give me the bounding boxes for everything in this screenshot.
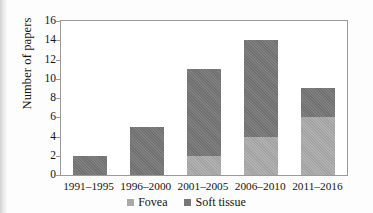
x-tick-label: 2001–2005	[174, 180, 231, 193]
bar-segment	[187, 69, 221, 156]
bar-segment	[73, 156, 107, 175]
y-tick-mark	[56, 175, 60, 176]
bar-group	[61, 21, 118, 175]
stacked-bar-chart: Number of papers 0246810121416 1991–1995…	[0, 0, 373, 213]
legend-swatch-icon	[184, 199, 191, 206]
y-tick-label: 6	[34, 111, 56, 122]
y-tick-mark	[56, 117, 60, 118]
bar-segment	[301, 117, 335, 175]
chart-legend: FoveaSoft tissue	[0, 196, 373, 208]
bar-group	[118, 21, 175, 175]
bar-stack	[73, 156, 107, 175]
bar-segment	[301, 88, 335, 117]
legend-swatch-icon	[127, 199, 134, 206]
bar-segment	[187, 156, 221, 175]
y-tick-mark	[56, 60, 60, 61]
legend-item[interactable]: Soft tissue	[184, 196, 245, 208]
y-tick-label: 12	[34, 54, 56, 65]
bar-segment	[130, 127, 164, 175]
y-tick-label: 14	[34, 34, 56, 45]
y-tick-label: 8	[34, 92, 56, 103]
y-tick-label: 4	[34, 131, 56, 142]
legend-label: Fovea	[138, 196, 167, 208]
bar-segment	[244, 137, 278, 176]
bar-stack	[301, 88, 335, 175]
y-tick-mark	[56, 40, 60, 41]
y-axis-tick-labels: 0246810121416	[34, 20, 56, 176]
bar-stack	[187, 69, 221, 175]
bar-group	[290, 21, 347, 175]
bar-group	[233, 21, 290, 175]
x-tick-label: 2006–2010	[232, 180, 289, 193]
y-tick-mark	[56, 137, 60, 138]
bar-stack	[244, 40, 278, 175]
y-tick-mark	[56, 156, 60, 157]
y-tick-label: 16	[34, 15, 56, 26]
legend-item[interactable]: Fovea	[127, 196, 167, 208]
legend-label: Soft tissue	[195, 196, 245, 208]
x-axis-tick-labels: 1991–19951996–20002001–20052006–20102011…	[60, 180, 348, 196]
y-tick-label: 10	[34, 73, 56, 84]
bar-group	[175, 21, 232, 175]
bars-layer	[61, 21, 347, 175]
y-tick-mark	[56, 79, 60, 80]
y-tick-mark	[56, 21, 60, 22]
x-tick-label: 1991–1995	[60, 180, 117, 193]
y-tick-label: 2	[34, 150, 56, 161]
bar-segment	[244, 40, 278, 136]
scan-edge-artifact	[0, 0, 7, 213]
x-tick-label: 1996–2000	[117, 180, 174, 193]
bar-stack	[130, 127, 164, 175]
y-axis-title: Number of papers	[20, 0, 35, 129]
x-tick-label: 2011–2016	[289, 180, 346, 193]
y-tick-label: 0	[34, 169, 56, 180]
y-tick-mark	[56, 98, 60, 99]
